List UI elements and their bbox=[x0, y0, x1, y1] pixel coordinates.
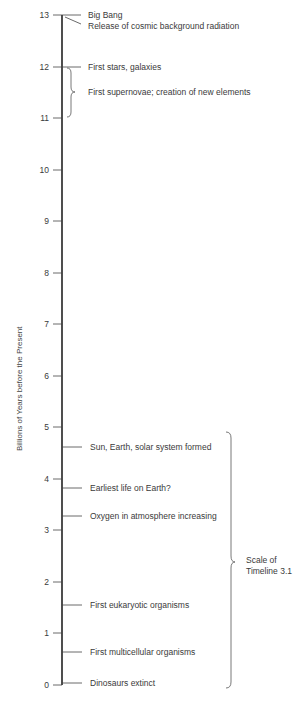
event-first-stars: First stars, galaxies bbox=[88, 62, 161, 72]
tick-12: 12 bbox=[37, 62, 49, 72]
event-multicellular: First multicellular organisms bbox=[90, 647, 195, 657]
event-eukaryotes: First eukaryotic organisms bbox=[90, 600, 189, 610]
tick-4: 4 bbox=[37, 474, 49, 484]
event-solar-system: Sun, Earth, solar system formed bbox=[90, 442, 211, 452]
tick-1: 1 bbox=[37, 628, 49, 638]
tick-10: 10 bbox=[37, 165, 49, 175]
tick-2: 2 bbox=[37, 577, 49, 587]
axis-ticks bbox=[53, 15, 62, 685]
supernovae-brace bbox=[67, 68, 75, 117]
event-big-bang: Big Bang bbox=[88, 10, 123, 20]
event-first-supernovae: First supernovae; creation of new elemen… bbox=[88, 87, 251, 97]
tick-8: 8 bbox=[37, 268, 49, 278]
axis-label: Billions of Years before the Present bbox=[15, 326, 24, 451]
event-earliest-life: Earliest life on Earth? bbox=[90, 483, 171, 493]
event-leaders bbox=[62, 15, 82, 683]
tick-0: 0 bbox=[37, 680, 49, 690]
scale-brace bbox=[226, 432, 235, 688]
tick-9: 9 bbox=[37, 216, 49, 226]
scale-note-line1: Scale of bbox=[246, 555, 292, 566]
tick-11: 11 bbox=[37, 113, 49, 123]
tick-6: 6 bbox=[37, 371, 49, 381]
timeline-graphic bbox=[0, 0, 303, 704]
scale-note: Scale of Timeline 3.1 bbox=[246, 555, 292, 577]
event-cosmic-background: Release of cosmic background radiation bbox=[88, 21, 239, 31]
event-dinosaurs-extinct: Dinosaurs extinct bbox=[90, 678, 155, 688]
tick-3: 3 bbox=[37, 525, 49, 535]
tick-7: 7 bbox=[37, 319, 49, 329]
tick-13: 13 bbox=[37, 10, 49, 20]
event-oxygen: Oxygen in atmosphere increasing bbox=[90, 511, 217, 521]
scale-note-line2: Timeline 3.1 bbox=[246, 566, 292, 577]
tick-5: 5 bbox=[37, 422, 49, 432]
